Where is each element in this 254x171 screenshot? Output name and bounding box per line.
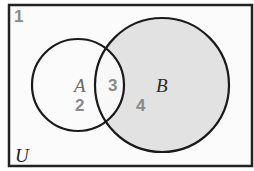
- venn-diagram: 1 2 3 4 A B U: [0, 0, 254, 171]
- set-b-label: B: [156, 75, 168, 96]
- region-number-3: 3: [108, 76, 117, 95]
- region-number-4: 4: [136, 96, 146, 115]
- set-a-label: A: [72, 75, 86, 96]
- region-number-1: 1: [14, 7, 23, 26]
- universe-label: U: [15, 145, 30, 166]
- region-number-2: 2: [75, 96, 84, 115]
